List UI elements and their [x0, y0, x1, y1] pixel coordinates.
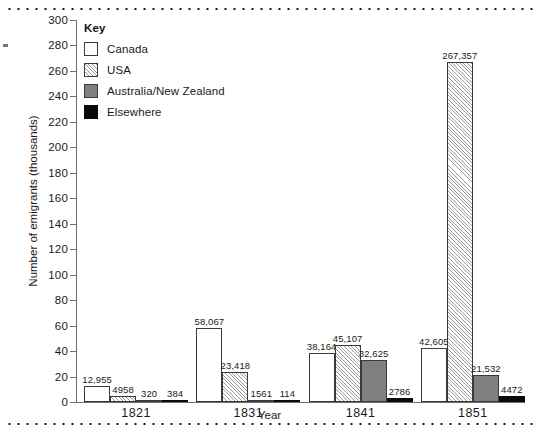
- chart-page: 0204060801001201401601802002202402602803…: [0, 0, 539, 437]
- y-axis-tick-label: 260: [4, 65, 68, 77]
- bar-1841-elsewhere[interactable]: [387, 398, 413, 402]
- y-axis-tick-label: 0: [4, 396, 68, 408]
- legend-items: CanadaUSAAustralia/New ZealandElsewhere: [84, 41, 274, 120]
- legend-title: Key: [84, 22, 274, 34]
- y-axis-tick: [70, 147, 76, 148]
- bar-value-label: 114: [264, 388, 310, 399]
- bar-value-label: 267,357: [437, 50, 483, 61]
- x-axis-tick-label-1841: 1841: [299, 406, 423, 420]
- bar-1821-elsewhere[interactable]: [162, 400, 188, 403]
- legend-item-label: USA: [107, 64, 131, 76]
- legend-swatch-canada-icon: [84, 42, 98, 56]
- y-axis-tick: [70, 45, 76, 46]
- y-axis-tick: [70, 402, 76, 403]
- bar-value-label: 58,067: [186, 316, 232, 327]
- y-axis-tick: [70, 122, 76, 123]
- bar-1831-anz[interactable]: [248, 400, 274, 403]
- legend: Key CanadaUSAAustralia/New ZealandElsewh…: [84, 22, 274, 125]
- y-axis-tick: [70, 198, 76, 199]
- bar-value-label: 21,532: [463, 363, 509, 374]
- bar-1831-elsewhere[interactable]: [274, 400, 300, 403]
- x-axis-tick-label-1851: 1851: [411, 406, 535, 420]
- bar-1821-anz[interactable]: [136, 400, 162, 403]
- legend-swatch-elsewhere-icon: [84, 105, 98, 119]
- x-axis-line: [76, 402, 525, 403]
- y-axis-tick: [70, 275, 76, 276]
- y-axis-line: [76, 20, 77, 403]
- y-axis-tick: [70, 351, 76, 352]
- legend-swatch-usa-icon: [84, 63, 98, 77]
- bar-value-label: 4472: [489, 384, 535, 395]
- bar-1851-usa[interactable]: [447, 62, 473, 402]
- legend-item-label: Canada: [107, 43, 148, 55]
- y-axis-tick-label: 240: [4, 90, 68, 102]
- legend-item-canada[interactable]: Canada: [84, 41, 274, 57]
- y-axis-tick-label: 40: [4, 345, 68, 357]
- y-axis-tick: [70, 173, 76, 174]
- y-axis-tick: [70, 326, 76, 327]
- y-axis-tick-label: 60: [4, 320, 68, 332]
- bar-value-label: 32,625: [351, 348, 397, 359]
- legend-item-usa[interactable]: USA: [84, 62, 274, 78]
- y-axis-tick: [70, 20, 76, 21]
- y-axis-tick-label: 280: [4, 39, 68, 51]
- legend-swatch-anz-icon: [84, 84, 98, 98]
- y-axis-tick: [70, 96, 76, 97]
- bar-value-label: 384: [152, 388, 198, 399]
- x-axis-tick-label-1821: 1821: [74, 406, 198, 420]
- y-axis-tick: [70, 71, 76, 72]
- bar-value-label: 2786: [377, 386, 423, 397]
- y-axis-tick-label: 20: [4, 371, 68, 383]
- y-axis-tick: [70, 300, 76, 301]
- bar-1851-elsewhere[interactable]: [499, 396, 525, 402]
- y-axis-tick-label: 300: [4, 14, 68, 26]
- x-axis-tick-label-1831: 1831: [186, 406, 310, 420]
- y-axis-label: Number of emigrants (thousands): [27, 106, 39, 296]
- bar-value-label: 23,418: [212, 360, 258, 371]
- bar-1851-canada[interactable]: [421, 348, 447, 402]
- legend-item-label: Australia/New Zealand: [107, 85, 225, 97]
- bar-1841-canada[interactable]: [309, 353, 335, 402]
- bar-value-label: 45,107: [325, 333, 371, 344]
- legend-item-elsewhere[interactable]: Elsewhere: [84, 104, 274, 120]
- legend-item-anz[interactable]: Australia/New Zealand: [84, 83, 274, 99]
- y-axis-tick: [70, 249, 76, 250]
- grouped-bar-chart: 0204060801001201401601802002202402602803…: [0, 0, 539, 437]
- legend-item-label: Elsewhere: [107, 106, 162, 118]
- y-axis-tick: [70, 224, 76, 225]
